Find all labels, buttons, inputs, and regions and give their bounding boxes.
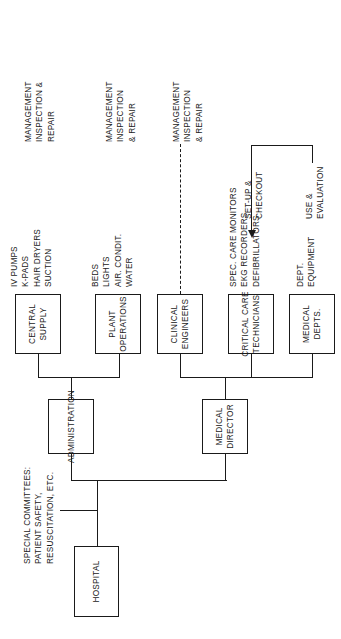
box-plant-operations-label-2: OPERATIONS xyxy=(118,296,129,352)
connector-medical-director-out xyxy=(225,377,226,399)
box-clinical-engineers-label-2: ENGINEERS xyxy=(180,299,191,349)
connector-administration-children-spine xyxy=(38,377,119,378)
connector-to-administration xyxy=(71,480,97,481)
note-special-committees-line-1: SPECIAL COMMITTEES: xyxy=(22,467,33,564)
note-medical-depts-equipment: DEPT. EQUIPMENT xyxy=(295,237,318,287)
note-mir-plant-operations-line-3: & REPAIR xyxy=(127,81,138,142)
connector-feedback-riser xyxy=(251,145,313,146)
note-plant-operations-equipment-line-3: AIR. CONDIT. xyxy=(113,234,124,287)
connector-dashed-advisory xyxy=(180,144,181,294)
note-medical-depts-equipment-line-1: DEPT. xyxy=(295,237,306,287)
diagram-rotation-frame: HOSPITAL ADMINISTRATION MEDICAL DIRECTOR… xyxy=(0,0,341,639)
note-setup-checkout-line-2: CHECKOUT xyxy=(254,171,265,219)
box-hospital-label: HOSPITAL xyxy=(91,561,102,603)
note-special-committees-line-2: PATIENT SAFETY, xyxy=(33,467,44,564)
box-medical-depts-label-1: MEDICAL xyxy=(301,305,312,343)
note-critical-care-equipment-line-1: SPEC. CARE MONITORS xyxy=(228,187,239,287)
note-use-evaluation-line-2: EVALUATION xyxy=(315,166,326,219)
connector-feedback-use-stub xyxy=(312,145,313,163)
box-medical-director[interactable]: MEDICAL DIRECTOR xyxy=(202,399,248,454)
note-management-inspection-repair-plant-operations: MANAGEMENT INSPECTION & REPAIR xyxy=(104,81,138,142)
note-central-supply-equipment-line-2: K-PADS xyxy=(20,229,31,287)
note-mir-plant-operations-line-1: MANAGEMENT xyxy=(104,81,115,142)
note-medical-depts-equipment-line-2: EQUIPMENT xyxy=(306,237,317,287)
note-plant-operations-equipment-line-1: BEDS xyxy=(90,234,101,287)
note-mir-clinical-engineers-line-3: & REPAIR xyxy=(194,81,205,142)
note-mir-central-supply-line-3: REPAIR xyxy=(46,81,57,142)
box-medical-director-label-2: DIRECTOR xyxy=(225,404,236,449)
note-use-evaluation: USE & EVALUATION xyxy=(304,166,327,219)
connector-special-committees xyxy=(60,510,97,511)
connector-medical-director-stub xyxy=(225,454,226,481)
note-special-committees: SPECIAL COMMITTEES: PATIENT SAFETY, RESU… xyxy=(22,467,56,564)
note-central-supply-equipment-line-1: IV PUMPS xyxy=(9,229,20,287)
box-clinical-engineers-label-1: CLINICAL xyxy=(169,305,180,344)
box-central-supply[interactable]: CENTRAL SUPPLY xyxy=(15,294,61,354)
connector-to-critical-care xyxy=(251,354,252,378)
note-use-evaluation-line-1: USE & xyxy=(304,166,315,219)
note-mir-central-supply-line-1: MANAGEMENT xyxy=(23,81,34,142)
connector-to-central-supply xyxy=(38,354,39,378)
note-mir-plant-operations-line-2: INSPECTION xyxy=(115,81,126,142)
box-clinical-engineers[interactable]: CLINICAL ENGINEERS xyxy=(157,294,203,354)
box-plant-operations[interactable]: PLANT OPERATIONS xyxy=(95,294,141,354)
org-chart-canvas: HOSPITAL ADMINISTRATION MEDICAL DIRECTOR… xyxy=(0,0,341,639)
note-setup-checkout: SET-UP & CHECKOUT xyxy=(243,171,266,219)
box-critical-care-technicians[interactable]: CRITICAL CARE TECHNICIANS xyxy=(228,294,274,354)
note-plant-operations-equipment-line-2: LIGHTS xyxy=(101,234,112,287)
note-plant-operations-equipment-line-4: WATER xyxy=(124,234,135,287)
box-medical-depts[interactable]: MEDICAL DEPTS. xyxy=(289,294,335,354)
note-management-inspection-repair-central-supply: MANAGEMENT INSPECTION & REPAIR xyxy=(23,81,57,142)
connector-main-spine xyxy=(97,480,227,481)
connector-to-medical-depts xyxy=(312,354,313,378)
note-special-committees-line-3: RESUSCITATION, ETC. xyxy=(45,467,56,564)
box-critical-care-technicians-label-1: CRITICAL CARE xyxy=(240,291,251,356)
note-mir-central-supply-line-2: INSPECTION & xyxy=(34,81,45,142)
box-central-supply-label-1: CENTRAL xyxy=(27,304,38,344)
connector-to-plant-operations xyxy=(119,354,120,378)
connector-medical-director-children-spine xyxy=(180,377,313,378)
note-setup-checkout-line-1: SET-UP & xyxy=(243,171,254,219)
note-central-supply-equipment-line-3: HAIR DRYERS xyxy=(32,229,43,287)
note-central-supply-equipment: IV PUMPS K-PADS HAIR DRYERS SUCTION xyxy=(9,229,54,287)
box-medical-depts-label-2: DEPTS. xyxy=(312,308,323,339)
box-administration-label: ADMINISTRATION xyxy=(66,390,77,463)
connector-hospital-trunk xyxy=(97,480,98,546)
box-administration[interactable]: ADMINISTRATION xyxy=(48,399,94,454)
note-mir-clinical-engineers-line-1: MANAGEMENT xyxy=(171,81,182,142)
note-management-inspection-repair-clinical-engineers: MANAGEMENT INSPECTION & REPAIR xyxy=(171,81,205,142)
box-plant-operations-label-1: PLANT xyxy=(107,310,118,338)
box-medical-director-label-1: MEDICAL xyxy=(214,407,225,445)
note-central-supply-equipment-line-4: SUCTION xyxy=(43,229,54,287)
note-mir-clinical-engineers-line-2: INSPECTION xyxy=(182,81,193,142)
box-central-supply-label-2: SUPPLY xyxy=(38,307,49,340)
box-hospital[interactable]: HOSPITAL xyxy=(74,546,119,617)
note-plant-operations-equipment: BEDS LIGHTS AIR. CONDIT. WATER xyxy=(90,234,135,287)
connector-to-clinical-engineers xyxy=(180,354,181,378)
arrowhead-feedback xyxy=(248,230,256,238)
box-critical-care-technicians-label-2: TECHNICIANS xyxy=(251,295,262,353)
